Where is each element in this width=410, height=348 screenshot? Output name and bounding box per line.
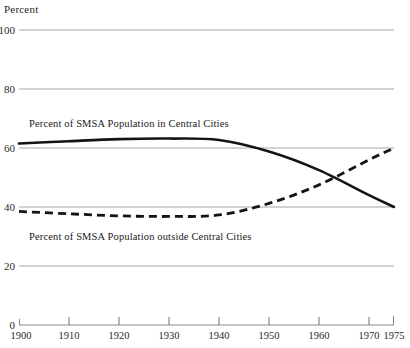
y-tick-label-60: 60 <box>4 142 16 154</box>
series-line-in-central-cities <box>19 139 394 207</box>
y-tick-label-80: 80 <box>4 83 16 95</box>
x-tick-label-1950: 1950 <box>259 330 280 341</box>
y-tick-label-40: 40 <box>4 201 16 213</box>
x-tick-label-1900: 1900 <box>11 330 32 341</box>
line-chart-plot: 100 80 60 40 20 0 1900 1910 1920 <box>0 0 410 348</box>
x-tick-label-1910: 1910 <box>59 330 80 341</box>
x-tick-label-1960: 1960 <box>309 330 330 341</box>
x-tick-label-1940: 1940 <box>209 330 230 341</box>
series-annotation-outside-central-cities: Percent of SMSA Population outside Centr… <box>29 231 252 242</box>
x-axis <box>19 316 394 325</box>
x-tick-label-1970: 1970 <box>359 330 380 341</box>
x-tick-label-1975: 1975 <box>384 330 405 341</box>
x-tick-label-1920: 1920 <box>109 330 130 341</box>
y-axis-tick-labels: 100 80 60 40 20 0 <box>0 24 16 331</box>
x-tick-label-1930: 1930 <box>159 330 180 341</box>
chart-container: Percent 100 80 60 40 20 0 <box>0 0 410 348</box>
y-tick-label-100: 100 <box>0 24 16 36</box>
series-annotation-in-central-cities: Percent of SMSA Population in Central Ci… <box>29 118 229 129</box>
x-axis-tick-marks <box>69 317 369 325</box>
y-tick-label-20: 20 <box>4 260 16 272</box>
x-axis-tick-labels: 1900 1910 1920 1930 1940 1950 1960 1970 … <box>11 330 405 341</box>
series-line-outside-central-cities <box>19 148 394 216</box>
